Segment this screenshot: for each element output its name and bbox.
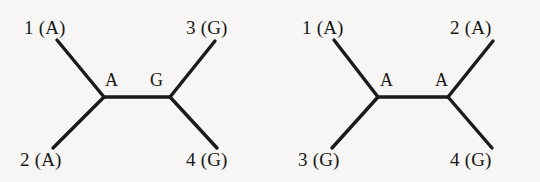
left-tree-tip-label-3: 3 (G) — [186, 18, 228, 37]
right-tree-tip-label-2: 2 (A) — [450, 18, 492, 37]
branch-tip-2 — [448, 41, 493, 97]
branch-tip-1 — [57, 40, 104, 97]
left-tree-tip-label-4: 4 (G) — [186, 150, 228, 169]
right-tree-internal-node-label-left: A — [380, 71, 393, 89]
branch-tip-2 — [53, 97, 104, 148]
phylogenetic-tree-figure: 1 (A) 3 (G) 2 (A) 4 (G) A G 1 (A) 2 (A) … — [0, 0, 540, 182]
right-tree-tip-label-1: 1 (A) — [302, 18, 344, 37]
left-tree-tip-label-1: 1 (A) — [24, 18, 66, 37]
branch-tip-1 — [334, 40, 378, 97]
right-tree-internal-node-label-right: A — [435, 71, 448, 89]
left-tree-tip-label-2: 2 (A) — [20, 150, 62, 169]
right-tree-tip-label-4: 4 (G) — [450, 150, 492, 169]
branch-tip-4 — [448, 97, 492, 148]
left-tree-internal-node-label-right: G — [150, 71, 163, 89]
right-phylogenetic-tree: 1 (A) 2 (A) 3 (G) 4 (G) A A — [270, 0, 540, 182]
branch-tip-3 — [170, 41, 215, 97]
right-tree-tip-label-3: 3 (G) — [298, 150, 340, 169]
branch-tip-4 — [170, 97, 217, 148]
left-phylogenetic-tree: 1 (A) 3 (G) 2 (A) 4 (G) A G — [0, 0, 270, 182]
left-tree-internal-node-label-left: A — [105, 71, 118, 89]
branch-tip-3 — [332, 97, 378, 148]
